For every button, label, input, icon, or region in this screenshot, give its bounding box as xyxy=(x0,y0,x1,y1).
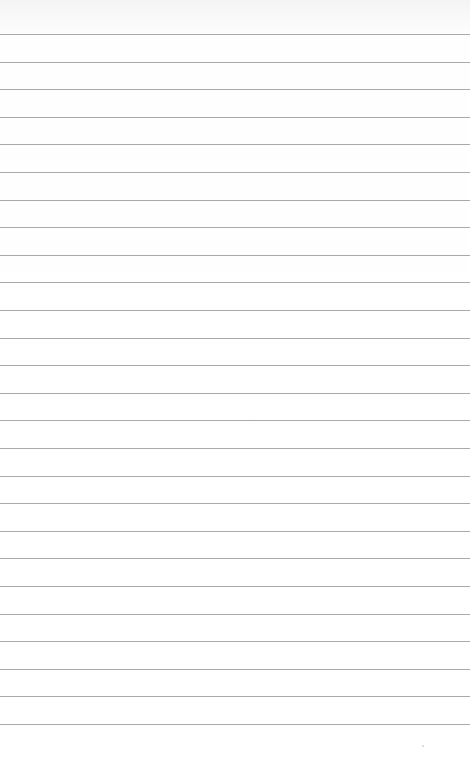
ruled-line xyxy=(0,393,470,394)
ruled-line xyxy=(0,531,470,532)
ruled-line xyxy=(0,420,470,421)
ruled-line xyxy=(0,614,470,615)
ruled-line xyxy=(0,558,470,559)
ruled-line xyxy=(0,255,470,256)
ruled-line xyxy=(0,448,470,449)
ruled-line xyxy=(0,641,470,642)
ruled-line xyxy=(0,669,470,670)
ruled-line xyxy=(0,365,470,366)
ruled-line xyxy=(0,200,470,201)
ruled-line xyxy=(0,310,470,311)
ruled-line xyxy=(0,282,470,283)
ruled-line xyxy=(0,586,470,587)
ruled-line xyxy=(0,503,470,504)
ruled-line xyxy=(0,338,470,339)
ruled-line xyxy=(0,724,470,725)
ruled-line xyxy=(0,89,470,90)
ruled-line xyxy=(0,144,470,145)
ruled-line xyxy=(0,696,470,697)
ruled-line xyxy=(0,62,470,63)
paper-speck xyxy=(422,745,424,747)
ruled-line xyxy=(0,117,470,118)
ruled-line xyxy=(0,172,470,173)
lined-notepad-page xyxy=(0,0,470,767)
ruled-line xyxy=(0,34,470,35)
ruled-line xyxy=(0,227,470,228)
ruled-line xyxy=(0,476,470,477)
